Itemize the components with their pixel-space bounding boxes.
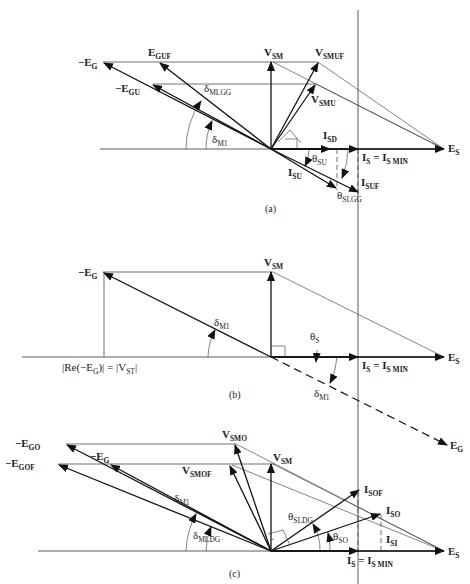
panel-b: −EG VSM δM1 θS δM1 IS = IS MIN ES EG |Re… — [22, 256, 463, 454]
label-vsm-c: VSM — [273, 451, 292, 466]
right-angle-b — [271, 346, 285, 357]
label-vsmuf-a: VSMUF — [315, 46, 345, 61]
label-isi-c: ISI — [386, 533, 397, 548]
label-es-a: ES — [448, 142, 460, 157]
vsmof-arrow-c — [230, 466, 271, 551]
label-eguf-a: EGUF — [148, 46, 172, 61]
label-neg-egof-c: −EGOF — [5, 457, 35, 472]
label-theta-su-a: θSU — [312, 152, 327, 167]
label-delta-m1-a: δM1 — [212, 133, 228, 148]
panel-a: −EG −EGU EGUF VSM VSMUF VSMU δMLGG δM1 I… — [78, 46, 460, 215]
label-re-vst-b: |Re(−EG)| = |VST| — [62, 361, 137, 376]
label-vsmu-a: VSMU — [311, 93, 336, 108]
label-vsm-a: VSM — [264, 46, 283, 61]
panel-c: −EGO −EGOF −EG VSMO VSMOF VSM δM1 δMLDG … — [5, 428, 460, 580]
label-eg-b: EG — [450, 439, 463, 454]
label-theta-s-b: θS — [310, 330, 319, 345]
label-neg-eg-b: −EG — [78, 266, 98, 281]
caption-b: (b) — [229, 389, 241, 401]
label-theta-slgg-a: θSLGG — [337, 189, 362, 204]
vsmuf-arrow-a — [271, 63, 318, 149]
right-angle-a — [278, 130, 301, 143]
label-vsmof-c: VSMOF — [182, 464, 212, 479]
caption-a: (a) — [265, 203, 276, 215]
label-es-b: ES — [448, 351, 460, 366]
label-is-eq-a: IS = IS MIN — [362, 151, 409, 166]
label-isd-a: ISD — [323, 129, 337, 144]
label-is-eq-c: IS = IS MIN — [347, 554, 394, 569]
label-theta-so-c: θSO — [333, 530, 348, 545]
eg-dashed-arrow-b — [271, 357, 447, 445]
label-isuf-a: ISUF — [361, 176, 380, 191]
neg-egof-arrow-c — [59, 465, 271, 551]
label-es-c: ES — [448, 545, 460, 560]
phasor-diagram: −EG −EGU EGUF VSM VSMUF VSMU δMLGG δM1 I… — [0, 0, 470, 584]
neg-eg-arrow-b — [104, 273, 271, 357]
label-isof-c: ISOF — [364, 483, 383, 498]
label-isu-a: ISU — [288, 166, 302, 181]
label-theta-sldg-c: θSLDG — [288, 510, 313, 525]
label-neg-ego-c: −EGO — [15, 437, 40, 452]
label-delta-m1-lower-b: δM1 — [314, 387, 330, 402]
label-is-eq-b: IS = IS MIN — [362, 359, 409, 374]
label-delta-mldg-c: δMLDG — [193, 529, 221, 544]
label-neg-egu-a: −EGU — [115, 82, 140, 97]
caption-c: (c) — [229, 568, 240, 580]
label-vsm-b: VSM — [264, 256, 283, 271]
label-neg-eg-a: −EG — [78, 56, 98, 71]
label-vsmo-c: VSMO — [222, 428, 247, 443]
label-iso-c: ISO — [386, 504, 400, 519]
label-delta-m1-b: δM1 — [214, 316, 230, 331]
label-delta-m1-c: δM1 — [174, 492, 190, 507]
vsmu-arrow-a — [271, 85, 315, 149]
isu-arrow-a — [271, 149, 336, 188]
